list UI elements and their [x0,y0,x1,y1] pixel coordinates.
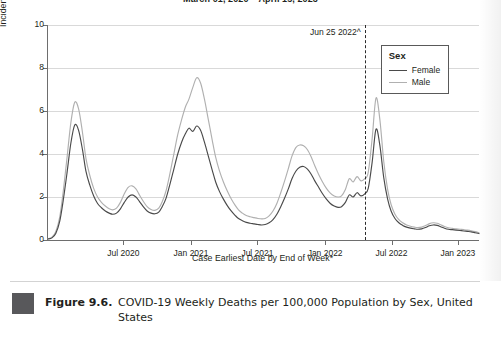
legend-label-female: Female [412,65,440,75]
x-axis-tick [191,240,192,245]
page-gutter-shadow [479,0,501,281]
x-axis-tick [458,240,459,245]
y-axis-tick-label: 2 [4,192,44,201]
legend-swatch-female [389,70,407,71]
chart-title: March 01, 2020 – April 15, 2023 [0,0,501,4]
legend-item-male: Male [389,76,440,88]
legend-item-female: Female [389,64,440,76]
x-axis-tick [123,240,124,245]
x-axis-tick [325,240,326,245]
legend: Sex Female Male [381,45,449,94]
x-axis-title: Case Earliest Date by End of Week* [47,253,478,263]
y-axis-tick-label: 0 [4,235,44,244]
figure-page: March 01, 2020 – April 15, 2023 Incident… [0,0,501,337]
legend-title: Sex [389,50,440,61]
legend-label-male: Male [412,77,430,87]
figure-number: Figure 9.6. [45,296,112,309]
y-axis-tick-label: 6 [4,106,44,115]
y-axis-tick-label: 4 [4,149,44,158]
plot-area: 0246810Jul 2020Jan 2021Jul 2021Jan 2022J… [47,25,479,241]
y-axis-tick-label: 10 [4,20,44,29]
x-axis-tick [257,240,258,245]
line-female [48,124,479,239]
caption-marker [12,293,34,314]
annotation-vertical-line [365,25,366,240]
x-axis-tick [392,240,393,245]
y-axis-tick-label: 8 [4,63,44,72]
caption-divider [10,281,480,282]
figure-caption: COVID-19 Weekly Deaths per 100,000 Popul… [118,295,478,325]
annotation-label: Jun 25 2022^ [273,27,361,37]
legend-swatch-male [389,82,407,83]
